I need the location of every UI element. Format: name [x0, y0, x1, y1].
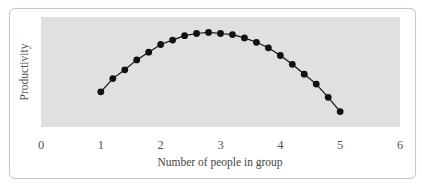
data-point-marker — [313, 81, 320, 88]
x-axis-ticks: 0123456 — [38, 138, 403, 152]
data-point-marker — [145, 49, 152, 56]
data-point-marker — [301, 71, 308, 78]
data-point-marker — [121, 66, 128, 73]
data-point-marker — [109, 75, 116, 82]
data-point-marker — [253, 39, 260, 46]
data-point-marker — [205, 29, 212, 36]
data-point-marker — [277, 52, 284, 59]
data-point-marker — [193, 30, 200, 37]
x-tick-label: 3 — [217, 138, 223, 152]
data-point-marker — [289, 61, 296, 68]
data-point-marker — [229, 31, 236, 38]
data-point-marker — [325, 94, 332, 101]
x-tick-label: 6 — [397, 138, 403, 152]
data-point-marker — [217, 30, 224, 37]
data-point-marker — [181, 32, 188, 39]
data-point-marker — [265, 44, 272, 51]
data-point-marker — [133, 57, 140, 64]
x-tick-label: 1 — [98, 138, 104, 152]
x-tick-label: 4 — [277, 138, 284, 152]
productivity-chart: 0123456 Number of people in group Produc… — [0, 0, 422, 188]
data-point-marker — [337, 108, 344, 115]
y-axis-label: Productivity — [18, 43, 31, 100]
data-point-marker — [97, 88, 104, 95]
data-point-marker — [241, 35, 248, 42]
x-axis-label: Number of people in group — [157, 156, 282, 169]
x-tick-label: 0 — [38, 138, 44, 152]
data-point-marker — [169, 37, 176, 44]
x-tick-label: 5 — [337, 138, 343, 152]
data-point-marker — [157, 41, 164, 48]
x-tick-label: 2 — [158, 138, 164, 152]
